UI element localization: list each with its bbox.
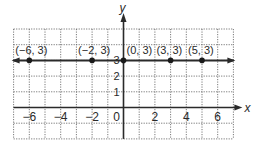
point-label: (−2, 3) bbox=[78, 44, 110, 56]
y-tick-label: 2 bbox=[113, 70, 119, 82]
data-point bbox=[121, 58, 127, 64]
data-point bbox=[168, 58, 174, 64]
x-tick-label: 6 bbox=[214, 110, 221, 124]
line-right-arrow-icon bbox=[227, 57, 235, 63]
data-point bbox=[89, 58, 95, 64]
x-tick-label: −6 bbox=[22, 110, 36, 124]
x-tick-label: −2 bbox=[85, 110, 99, 124]
tick-labels: −6−4−20246123 bbox=[22, 54, 221, 123]
data-point bbox=[199, 58, 205, 64]
point-label: (5, 3) bbox=[188, 44, 214, 56]
coordinate-plane: xy −6−4−20246123 (−6, 3)(−2, 3)(0, 3)(3,… bbox=[0, 0, 265, 151]
x-tick-label: −4 bbox=[54, 110, 68, 124]
point-label: (−6, 3) bbox=[15, 44, 47, 56]
x-tick-label: 0 bbox=[113, 110, 120, 124]
x-tick-label: 2 bbox=[152, 110, 159, 124]
point-label: (0, 3) bbox=[127, 44, 153, 56]
x-axis-arrow-icon bbox=[234, 105, 242, 111]
y-axis-label: y bbox=[119, 1, 127, 15]
data-point bbox=[27, 58, 33, 64]
line-left-arrow-icon bbox=[12, 57, 20, 63]
x-tick-label: 4 bbox=[183, 110, 190, 124]
point-label: (3, 3) bbox=[157, 44, 183, 56]
y-tick-label: 1 bbox=[113, 86, 119, 98]
x-axis-label: x bbox=[243, 101, 251, 115]
